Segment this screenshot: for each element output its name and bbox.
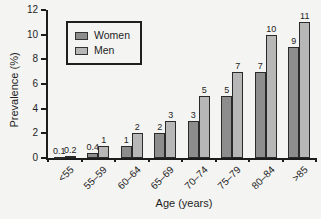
bar-value-label: 11 <box>290 11 320 21</box>
x-axis-title: Age (years) <box>124 197 244 209</box>
bar-men-65–69 <box>165 121 176 158</box>
bar-value-label: 5 <box>189 85 219 95</box>
legend-swatch-women-icon <box>75 32 88 40</box>
bar-women-75–79 <box>221 96 232 158</box>
bar-women-65–69 <box>154 133 165 158</box>
bar-women-55–59 <box>87 153 98 158</box>
bar-men-55–59 <box>98 146 109 158</box>
y-tick-label: 8 <box>0 53 38 65</box>
bar-women-60–64 <box>121 146 132 158</box>
bar-women-80–84 <box>255 72 266 158</box>
y-tick-label: 12 <box>0 4 38 16</box>
legend-label-women: Women <box>94 30 130 41</box>
bar-women-<55 <box>54 157 65 159</box>
y-tick-label: 2 <box>0 127 38 139</box>
y-axis-tick <box>41 108 46 110</box>
bar-women-70–74 <box>188 121 199 158</box>
x-axis-tick <box>47 158 49 162</box>
legend: Women Men <box>66 21 142 65</box>
bar-value-label: 1 <box>89 135 119 145</box>
y-axis-tick <box>41 83 46 85</box>
x-axis-tick <box>282 158 284 162</box>
y-tick-label: 6 <box>0 78 38 90</box>
bar-men->85 <box>299 22 310 158</box>
x-axis-tick <box>315 158 317 162</box>
y-axis-tick <box>41 132 46 134</box>
legend-item-men: Men <box>75 43 130 58</box>
y-tick-label: 0 <box>0 152 38 164</box>
bar-value-label: 3 <box>156 110 186 120</box>
bar-men-60–64 <box>132 133 143 158</box>
y-axis-tick <box>41 34 46 36</box>
bar-men-75–79 <box>232 72 243 158</box>
bar-men-70–74 <box>199 96 210 158</box>
legend-swatch-men-icon <box>75 47 88 55</box>
bar-women->85 <box>288 47 299 158</box>
bar-value-label: 0.2 <box>55 145 85 155</box>
y-axis-tick <box>41 9 46 11</box>
bar-value-label: 2 <box>122 122 152 132</box>
y-axis-tick <box>41 157 46 159</box>
prevalence-bar-chart: Prevalence (%) 0.10.41235790.2123571011 … <box>0 0 321 219</box>
x-axis-tick <box>215 158 217 162</box>
x-axis-tick <box>81 158 83 162</box>
x-axis-tick <box>248 158 250 162</box>
y-tick-label: 4 <box>0 103 38 115</box>
y-tick-label: 10 <box>0 29 38 41</box>
bar-men-<55 <box>65 156 76 158</box>
legend-label-men: Men <box>94 45 114 56</box>
bar-value-label: 7 <box>223 61 253 71</box>
bar-men-80–84 <box>266 35 277 158</box>
x-axis-tick <box>181 158 183 162</box>
x-axis-tick <box>114 158 116 162</box>
bar-value-label: 10 <box>256 24 286 34</box>
x-axis-tick <box>148 158 150 162</box>
legend-item-women: Women <box>75 28 130 43</box>
y-axis-tick <box>41 58 46 60</box>
